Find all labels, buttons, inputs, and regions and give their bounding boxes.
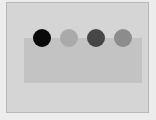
black-circle xyxy=(33,29,51,47)
dark-gray-circle xyxy=(87,29,105,47)
light-gray-circle xyxy=(60,29,78,47)
medium-gray-circle xyxy=(114,29,132,47)
